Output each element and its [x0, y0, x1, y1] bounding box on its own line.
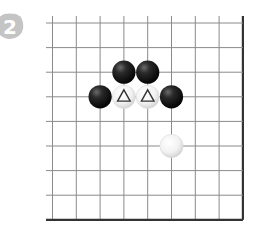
black-stone [112, 61, 135, 84]
black-stone [136, 61, 159, 84]
black-stone [89, 85, 112, 108]
white-stone-triangle-marked [112, 85, 135, 108]
black-stone [160, 85, 183, 108]
stones-layer [89, 61, 184, 158]
white-stone [160, 134, 183, 157]
board-grid [46, 16, 243, 220]
white-stone-triangle-marked [136, 85, 159, 108]
go-board-diagram [0, 0, 259, 232]
